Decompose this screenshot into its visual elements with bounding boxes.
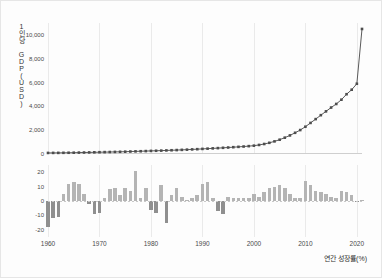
ytick-label: -10 [35,212,44,218]
xtick-label: 1990 [195,240,209,247]
bar [273,187,277,201]
bar [221,201,225,214]
ytick-label: 2,000 [29,127,44,133]
bar [252,194,256,201]
xtick-label: 1970 [92,240,106,247]
bar [159,185,163,201]
xtick-label: 2000 [247,240,261,247]
top-panel-ylabel: 1인당 GDP(USD) [15,23,28,154]
bar [206,182,210,201]
bar [113,188,117,201]
bar [216,201,220,211]
bar [123,188,127,201]
bar [309,185,313,201]
zero-line [48,201,362,202]
bar [201,184,205,201]
xtick-label: 1980 [144,240,158,247]
bar [268,188,272,201]
bar [288,194,292,201]
bar [165,201,169,223]
bar [283,188,287,201]
ytick-label: 10,000 [26,32,44,38]
gdp-per-capita-line-panel: 02,0004,0006,0008,00010,000 [48,23,362,154]
bar [144,188,148,201]
growth-rate-bar-panel: -20-1001020 1960197019801990200020102020 [48,165,362,237]
ytick-label: 0 [41,198,44,204]
xtick-label: 1960 [41,240,55,247]
bar [319,192,323,201]
bar [314,191,318,201]
bar [57,201,61,217]
ytick-label: 8,000 [29,56,44,62]
bar [149,201,153,210]
ytick-label: 0 [41,151,44,157]
bar [129,191,133,201]
bar [77,184,81,201]
bar [93,201,97,214]
ytick-label: 10 [37,184,44,190]
top-panel-ylabel-text: 1인당 GDP(USD) [18,23,25,107]
bar [51,201,55,218]
ytick-label: 20 [37,169,44,175]
bar [67,184,71,201]
bar [175,188,179,201]
bar [154,201,158,213]
bar [72,182,76,201]
bar [262,192,266,201]
ytick-label: 4,000 [29,103,44,109]
bar [98,201,102,213]
gdp-line-series [48,23,362,154]
bar [82,194,86,201]
bar [62,194,66,201]
bar [134,171,138,201]
bottom-panel-xlabel: 연간 성장률(%) [324,253,367,263]
xtick-label: 2020 [350,240,364,247]
bar [340,191,344,201]
ytick-label: -20 [35,227,44,233]
ytick-label: 6,000 [29,80,44,86]
bar [46,201,50,227]
xtick-label: 2010 [298,240,312,247]
bar [324,194,328,201]
bar [108,189,112,201]
bar [345,192,349,201]
chart-figure: 1인당 GDP(USD) 02,0004,0006,0008,00010,000… [0,0,382,278]
bar [304,181,308,201]
bar [278,185,282,201]
